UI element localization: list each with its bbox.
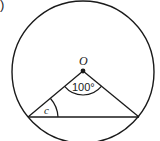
center-label: O [79,54,88,68]
part-marker: ) [0,0,4,12]
center-point [81,69,86,74]
central-angle-label: 100° [72,81,95,93]
circle-diagram: ) O 100° c [0,0,160,141]
inscribed-angle-label: c [44,104,49,116]
inscribed-angle-arc [51,99,59,118]
